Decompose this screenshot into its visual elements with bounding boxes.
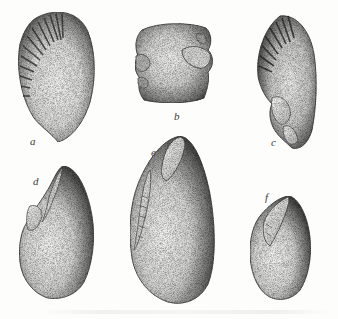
label-b: b bbox=[174, 111, 180, 122]
label-a: a bbox=[30, 136, 36, 147]
specimen-a bbox=[19, 12, 95, 142]
specimen-f bbox=[250, 196, 311, 299]
specimen-b bbox=[135, 24, 212, 103]
specimen-c bbox=[258, 16, 317, 149]
specimen-e bbox=[130, 136, 214, 303]
specimen-d bbox=[19, 166, 93, 298]
label-e: e bbox=[151, 147, 156, 158]
label-f: f bbox=[265, 192, 268, 203]
label-c: c bbox=[271, 137, 276, 148]
page-bleed-through bbox=[40, 310, 330, 314]
specimens-drawing bbox=[0, 0, 338, 319]
illustration-plate: a b c d e f bbox=[0, 0, 338, 319]
label-d: d bbox=[33, 176, 39, 187]
